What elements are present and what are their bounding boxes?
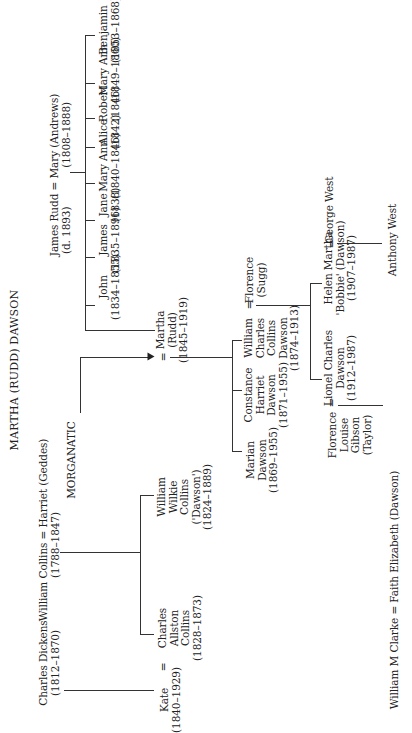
collins-parents-dates: (1788–1847) [50, 512, 62, 578]
child-tick [232, 451, 242, 452]
child-tick [310, 379, 322, 380]
charles-allston-collins: Charles Allston Collins (1828–1873) [157, 595, 203, 661]
child-tick [85, 118, 95, 119]
florence-louise-gibson-taylor: Florence Louise Gibson (Taylor) [327, 412, 373, 458]
dawson-children-bracket [232, 340, 233, 452]
child-tick [85, 35, 95, 36]
child-tick [232, 340, 242, 341]
lionel-charles-dawson: Lionel Charles Dawson (1912–1987) [323, 330, 358, 406]
dickens-name: Charles Dickens [38, 620, 50, 705]
william-charles-collins-dawson: William Charles Collins Dawson (1874–191… [243, 305, 301, 371]
clarke-marriage: William M Clarke = Faith Elizabeth (Daws… [389, 471, 401, 709]
child-tick [85, 83, 95, 84]
morganatic-line [80, 358, 81, 413]
equals-sign: = [158, 353, 170, 362]
dickens-dates: (1812–1870) [50, 630, 62, 696]
morganatic-arrow-line [80, 357, 150, 358]
child-tick [85, 183, 95, 184]
collins-parents-names: William Collins = Harriet (Geddes) [38, 439, 50, 622]
charles-tick [140, 634, 154, 635]
constance-dawson: Constance Harriet Dawson (1871–1955) [243, 362, 289, 428]
kate: Kate (1840–1929) [159, 667, 182, 733]
clarke-connector [338, 405, 383, 406]
rudd-parents-connector [70, 172, 86, 173]
florence-sugg: Florence (Sugg) [244, 257, 267, 303]
grandchildren-bracket [310, 283, 311, 380]
rudd-parents-dates: (d. 1893) (1808–1888) [61, 102, 73, 254]
rudd-parents-names: James Rudd = Mary (Andrews) [49, 94, 61, 256]
collins-sons-bracket [140, 495, 141, 635]
dawson-children-connector [170, 357, 232, 358]
family-tree-diagram: MARTHA (RUDD) DAWSON James Rudd = Mary (… [0, 0, 412, 733]
arrow-icon [148, 353, 155, 361]
sugg-children-connector [256, 305, 310, 306]
dickens-to-kate-line [64, 690, 154, 691]
rudd-child-benjamin: Benjamin(1853–1868) [98, 0, 121, 63]
child-tick [85, 220, 95, 221]
child-tick [85, 305, 95, 306]
wilkie-tick [140, 495, 154, 496]
child-tick [310, 283, 322, 284]
child-tick [85, 147, 95, 148]
child-tick [85, 257, 95, 258]
marian-dawson: Marian Dawson (1869–1955) [245, 427, 280, 493]
collins-to-sons-line [60, 552, 140, 553]
morganatic-label: MORGANATIC [66, 421, 78, 499]
martha-connector [85, 330, 155, 331]
west-connector [337, 243, 382, 244]
wilkie-collins: William Wilkie Collins ('Dawson') (1824–… [156, 464, 214, 530]
child-tick [232, 390, 242, 391]
anthony-west: Anthony West [387, 204, 399, 276]
diagram-title: MARTHA (RUDD) DAWSON [9, 290, 21, 451]
equals-sign: = [326, 399, 338, 408]
george-west: George West [324, 177, 336, 244]
equals-sign: = [158, 663, 170, 672]
